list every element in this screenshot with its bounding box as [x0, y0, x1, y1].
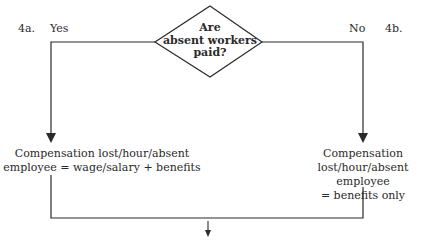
right-branch-answer: No — [349, 22, 365, 35]
left-branch-number: 4a. — [18, 22, 35, 35]
no-arrow-icon — [358, 133, 368, 143]
left-branch-answer: Yes — [50, 22, 68, 35]
down-arrow-icon — [205, 230, 211, 237]
right-result: Compensation lost/hour/absent employee =… — [290, 147, 423, 203]
right-branch-number: 4b. — [385, 22, 403, 35]
decision-question: Are absent workers paid? — [160, 22, 260, 60]
no-connector — [262, 42, 363, 141]
yes-arrow-icon — [46, 133, 56, 143]
left-result: Compensation lost/hour/absent employee =… — [0, 147, 204, 175]
yes-connector — [51, 42, 155, 141]
